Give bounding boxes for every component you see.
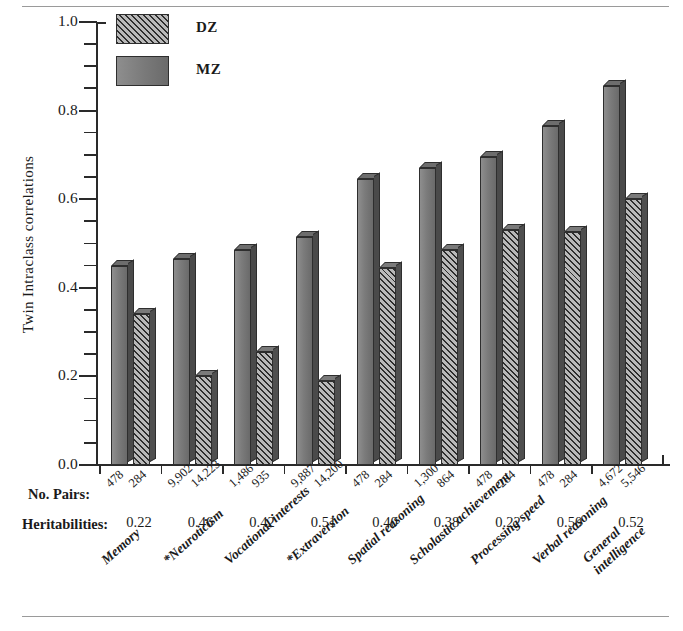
y-tick-0.2 — [79, 375, 97, 377]
bar-side-face — [519, 224, 525, 462]
bar-front-face — [564, 232, 581, 465]
group-tick-7 — [530, 465, 532, 474]
y-tick-0.25 — [84, 353, 97, 355]
pairs-dz-0: 284 — [126, 467, 150, 491]
heritabilities-row-label: Heritabilities: — [22, 516, 108, 533]
y-tick-0.95 — [84, 43, 97, 45]
y-tick-label-5: 1.0 — [32, 12, 78, 30]
group-tick-0 — [99, 465, 101, 474]
top-rule — [22, 6, 669, 7]
plot-area — [97, 22, 669, 465]
bar-front-face — [441, 250, 458, 465]
bar-dz-2 — [256, 352, 273, 465]
bar-front-face — [256, 352, 273, 465]
y-tick-0.55 — [84, 220, 97, 222]
bar-front-face — [173, 259, 190, 465]
bar-mz-4 — [357, 179, 374, 465]
bar-front-face — [379, 268, 396, 465]
bar-front-face — [625, 199, 642, 465]
bar-mz-2 — [234, 250, 251, 465]
bar-front-face — [480, 157, 497, 465]
bar-side-face — [581, 226, 587, 462]
y-tick-0.15 — [84, 398, 97, 400]
y-axis-title: Twin Intraclass correlations — [20, 65, 37, 425]
group-tick-8 — [591, 465, 593, 474]
bar-side-face — [212, 370, 218, 462]
bar-front-face — [296, 237, 313, 465]
pairs-dz-7: 284 — [556, 467, 580, 491]
y-tick-0 — [79, 464, 97, 466]
bar-dz-6 — [502, 230, 519, 465]
bar-mz-0 — [111, 266, 128, 465]
y-tick-0.6 — [79, 198, 97, 200]
bar-side-face — [458, 244, 464, 462]
no-pairs-row-label: No. Pairs: — [28, 486, 90, 503]
y-tick-label-3: 0.6 — [32, 189, 78, 207]
bar-side-face — [273, 346, 279, 462]
y-tick-0.45 — [84, 265, 97, 267]
y-tick-0.65 — [84, 176, 97, 178]
bar-side-face — [642, 193, 648, 462]
figure-container: 0.00.20.40.60.81.0 Twin Intraclass corre… — [0, 0, 683, 631]
bar-front-face — [234, 250, 251, 465]
bar-front-face — [419, 168, 436, 465]
group-tick-5 — [407, 465, 409, 474]
y-tick-0.8 — [79, 110, 97, 112]
y-tick-0.3 — [84, 331, 97, 333]
y-tick-0.7 — [84, 154, 97, 156]
y-tick-0.5 — [84, 243, 97, 245]
heritability-0: 0.22 — [109, 514, 169, 531]
bar-dz-5 — [441, 250, 458, 465]
bar-side-face — [150, 308, 156, 462]
bar-front-face — [318, 381, 335, 465]
bar-dz-4 — [379, 268, 396, 465]
pairs-mz-7: 478 — [533, 467, 557, 491]
bar-front-face — [603, 86, 620, 465]
bar-front-face — [502, 230, 519, 465]
bar-front-face — [357, 179, 374, 465]
y-tick-0.85 — [84, 87, 97, 89]
bar-front-face — [111, 266, 128, 465]
y-tick-label-4: 0.8 — [32, 101, 78, 119]
bar-mz-8 — [603, 86, 620, 465]
bar-dz-0 — [133, 314, 150, 465]
bar-side-face — [335, 374, 341, 462]
y-tick-0.1 — [84, 420, 97, 422]
bar-side-face — [396, 261, 402, 462]
pairs-mz-4: 478 — [349, 467, 373, 491]
bottom-rule — [22, 616, 669, 617]
y-tick-label-1: 0.2 — [32, 366, 78, 384]
y-tick-label-0: 0.0 — [32, 455, 78, 473]
pairs-mz-0: 478 — [103, 467, 127, 491]
y-tick-0.35 — [84, 309, 97, 311]
bar-dz-8 — [625, 199, 642, 465]
bar-mz-6 — [480, 157, 497, 465]
bar-mz-5 — [419, 168, 436, 465]
bar-dz-1 — [195, 376, 212, 465]
bar-front-face — [195, 376, 212, 465]
bar-front-face — [133, 314, 150, 465]
y-tick-0.05 — [84, 442, 97, 444]
bar-mz-1 — [173, 259, 190, 465]
y-tick-1 — [79, 21, 97, 23]
group-tick-1 — [161, 465, 163, 474]
bar-dz-3 — [318, 381, 335, 465]
bar-dz-7 — [564, 232, 581, 465]
group-tick-6 — [468, 465, 470, 474]
pairs-dz-4: 284 — [372, 467, 396, 491]
bar-mz-3 — [296, 237, 313, 465]
y-tick-0.9 — [84, 65, 97, 67]
y-tick-label-2: 0.4 — [32, 278, 78, 296]
bar-mz-7 — [542, 126, 559, 465]
y-tick-0.75 — [84, 132, 97, 134]
y-tick-0.4 — [79, 287, 97, 289]
group-tick-3 — [284, 465, 286, 474]
bar-front-face — [542, 126, 559, 465]
